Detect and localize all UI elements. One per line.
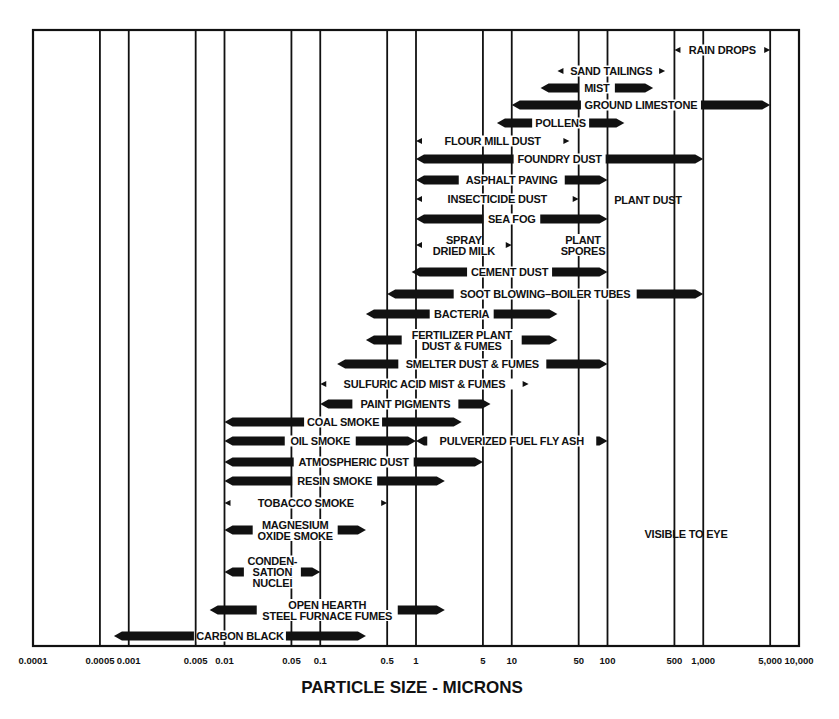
range-bar: TOBACCO SMOKE xyxy=(225,497,388,509)
bar-label: ASPHALT PAVING xyxy=(466,174,558,186)
bar-label: OXIDE SMOKE xyxy=(257,530,332,542)
bar-left-arrow xyxy=(416,176,459,185)
x-tick-label: 10,000 xyxy=(784,655,813,666)
bar-left-arrow xyxy=(497,119,532,128)
bar-label: CARBON BLACK xyxy=(196,630,284,642)
bar-label: SMELTER DUST & FUMES xyxy=(406,358,539,370)
bar-right-arrow xyxy=(659,68,665,74)
range-bar: OIL SMOKE xyxy=(225,435,417,447)
bar-left-arrow xyxy=(225,477,293,486)
range-bar: PLANTSPORES xyxy=(561,234,606,257)
bar-left-arrow xyxy=(225,418,305,427)
bar-label: PULVERIZED FUEL FLY ASH xyxy=(440,435,585,447)
range-bar: SOOT BLOWING–BOILER TUBES xyxy=(387,288,703,300)
x-tick-label: 0.0001 xyxy=(18,655,48,666)
bar-label: ATMOSPHERIC DUST xyxy=(299,456,410,468)
bar-left-arrow xyxy=(416,437,427,446)
bar-label: RAIN DROPS xyxy=(689,44,756,56)
bar-label: DUST & FUMES xyxy=(422,340,502,352)
range-bar: FLOUR MILL DUST xyxy=(416,135,569,147)
bar-left-arrow xyxy=(674,47,680,53)
range-bar: SPRAYDRIED MILK xyxy=(416,234,512,257)
bar-label: GROUND LIMESTONE xyxy=(585,99,698,111)
x-tick-label: 0.1 xyxy=(314,655,328,666)
bar-label: SULFURIC ACID MIST & FUMES xyxy=(344,378,506,390)
bar-label: POLLENS xyxy=(535,117,586,129)
bar-right-arrow xyxy=(286,632,366,641)
bar-left-arrow xyxy=(366,336,402,345)
range-bar: SEA FOG xyxy=(416,213,608,225)
range-bar: ASPHALT PAVING xyxy=(416,174,608,186)
bar-label: RESIN SMOKE xyxy=(297,475,372,487)
bar-right-arrow xyxy=(701,101,770,110)
bar-left-arrow xyxy=(225,526,253,535)
bar-left-arrow xyxy=(337,360,398,369)
x-tick-label: 500 xyxy=(666,655,682,666)
range-bar: MAGNESIUMOXIDE SMOKE xyxy=(225,519,366,542)
bar-right-arrow xyxy=(414,458,483,467)
x-axis-ticks: 0.00010.00050.0010.0050.010.050.10.51510… xyxy=(18,655,813,666)
annotation-plant-dust: PLANT DUST xyxy=(614,194,682,206)
range-bar: OPEN HEARTHSTEEL FURNACE FUMES xyxy=(210,599,445,622)
range-bar: MIST xyxy=(541,82,654,94)
bar-label: SEA FOG xyxy=(488,213,536,225)
bar-label: OIL SMOKE xyxy=(290,435,350,447)
range-bar: CONDEN-SATIONNUCLEI xyxy=(225,555,321,589)
bar-left-arrow xyxy=(416,215,483,224)
range-bar: CEMENT DUST xyxy=(412,266,608,278)
x-tick-label: 1,000 xyxy=(691,655,715,666)
x-tick-label: 0.005 xyxy=(184,655,208,666)
bar-left-arrow xyxy=(557,68,563,74)
bar-label: COAL SMOKE xyxy=(307,416,379,428)
x-tick-label: 0.0005 xyxy=(85,655,115,666)
range-bar: POLLENS xyxy=(497,117,624,129)
bar-left-arrow xyxy=(416,155,514,164)
bar-left-arrow xyxy=(320,400,352,409)
bar-label: PAINT PIGMENTS xyxy=(360,398,450,410)
bar-right-arrow xyxy=(606,155,704,164)
range-bar: SMELTER DUST & FUMES xyxy=(337,358,607,370)
bar-label: INSECTICIDE DUST xyxy=(448,193,548,205)
x-tick-label: 100 xyxy=(600,655,616,666)
range-bars: RAIN DROPSSAND TAILINGSMISTGROUND LIMEST… xyxy=(114,44,770,642)
x-tick-label: 10 xyxy=(506,655,517,666)
bar-left-arrow xyxy=(225,458,294,467)
bar-left-arrow xyxy=(412,268,467,277)
bar-left-arrow xyxy=(114,632,194,641)
range-bar: GROUND LIMESTONE xyxy=(512,99,770,111)
bar-right-arrow xyxy=(563,138,569,144)
range-bar: INSECTICIDE DUST xyxy=(416,193,579,205)
range-bar: RESIN SMOKE xyxy=(225,475,445,487)
bar-label: MIST xyxy=(584,82,610,94)
range-bar: PAINT PIGMENTS xyxy=(320,398,490,410)
bar-right-arrow xyxy=(596,437,607,446)
range-bar: FERTILIZER PLANTDUST & FUMES xyxy=(366,329,558,352)
bar-left-arrow xyxy=(210,606,257,615)
bar-right-arrow xyxy=(565,176,608,185)
particle-size-chart: RAIN DROPSSAND TAILINGSMISTGROUND LIMEST… xyxy=(0,0,839,719)
range-bar: SAND TAILINGS xyxy=(557,65,665,77)
x-tick-label: 5,000 xyxy=(758,655,782,666)
bar-right-arrow xyxy=(356,437,416,446)
bar-left-arrow xyxy=(225,568,244,577)
bar-label: FLOUR MILL DUST xyxy=(444,135,541,147)
bar-right-arrow xyxy=(301,568,320,577)
x-tick-label: 0.001 xyxy=(117,655,141,666)
bar-right-arrow xyxy=(382,418,462,427)
bar-right-arrow xyxy=(522,336,558,345)
bar-right-arrow xyxy=(458,400,490,409)
bar-right-arrow xyxy=(523,381,529,387)
bar-right-arrow xyxy=(540,215,607,224)
bar-right-arrow xyxy=(615,84,653,93)
bar-label: NUCLEI xyxy=(253,577,293,589)
bar-left-arrow xyxy=(541,84,579,93)
x-tick-label: 1 xyxy=(413,655,419,666)
range-bar: FOUNDRY DUST xyxy=(416,153,703,165)
annotation-visible-to-eye: VISIBLE TO EYE xyxy=(644,528,727,540)
x-tick-label: 5 xyxy=(480,655,486,666)
bar-label: SOOT BLOWING–BOILER TUBES xyxy=(460,288,630,300)
x-tick-label: 0.05 xyxy=(282,655,301,666)
bar-right-arrow xyxy=(494,310,558,319)
bar-right-arrow xyxy=(589,119,624,128)
bar-right-arrow xyxy=(546,360,607,369)
